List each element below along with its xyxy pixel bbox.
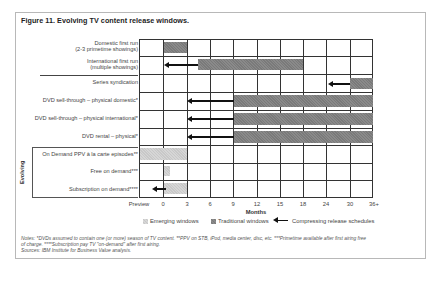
figure-notes: Notes: *DVDs assumed to contain one (or …	[21, 236, 421, 255]
section-divider	[40, 75, 138, 76]
compress-arrow-icon	[191, 100, 234, 102]
x-tick: 15	[277, 201, 283, 207]
x-tick: 12	[254, 201, 260, 207]
x-tick: 30	[347, 201, 353, 207]
legend-emerging: Emerging windows	[143, 218, 199, 224]
legend-label: Compressing release schedules	[292, 218, 375, 224]
compress-arrow-icon	[332, 83, 350, 85]
compress-arrow-icon	[168, 64, 198, 66]
bar-dvd-sell-international	[234, 113, 373, 125]
legend-compressing: Compressing release schedules	[274, 218, 375, 224]
grid-line	[139, 180, 373, 181]
compress-arrow-icon	[277, 220, 288, 222]
x-tick: Preview	[129, 201, 150, 207]
grid-line	[139, 197, 373, 198]
bar-series-syndication	[350, 78, 373, 89]
compress-arrow-icon	[191, 136, 234, 138]
row-label-dvd-rental: DVD rental – physical*	[82, 133, 138, 139]
bar-free-on-demand	[164, 166, 170, 176]
legend-label: Emerging windows	[150, 218, 199, 224]
x-tick: 18	[300, 201, 306, 207]
grid-line	[139, 92, 373, 93]
evolving-bracket	[32, 147, 138, 198]
grid-line	[139, 39, 373, 40]
row-label-domestic-first-run: Domestic first run (2-3 primetime showin…	[75, 40, 138, 53]
x-tick: 36+	[369, 201, 379, 207]
x-tick: 3	[185, 201, 188, 207]
sources-line: Sources: IBM Institute for Business Valu…	[21, 248, 421, 254]
bar-domestic-first-run	[164, 42, 187, 53]
evolving-group-label: Evolving	[19, 161, 25, 184]
bar-dvd-sell-domestic	[234, 95, 373, 107]
compress-arrow-icon	[156, 188, 166, 190]
legend-traditional: Traditional windows	[211, 218, 269, 224]
legend-label: Traditional windows	[218, 218, 269, 224]
row-sublabel-text: (multiple showings)	[87, 64, 138, 70]
row-label-dvd-sell-international: DVD sell-through – physical internationa…	[35, 115, 138, 121]
grid-line	[139, 39, 140, 198]
x-tick: 0	[161, 201, 164, 207]
grid-line	[139, 128, 373, 129]
x-axis-label: Months	[246, 209, 267, 215]
bar-dvd-rental	[234, 131, 373, 143]
x-tick: 6	[208, 201, 211, 207]
grid-line	[139, 145, 373, 146]
row-label-dvd-sell-domestic: DVD sell-through – physical domestic*	[43, 97, 138, 103]
traditional-swatch-icon	[211, 219, 216, 224]
x-tick: 9	[231, 201, 234, 207]
grid-line	[139, 110, 373, 111]
x-tick: 24	[323, 201, 329, 207]
compress-arrow-icon	[191, 118, 234, 120]
grid-line	[139, 56, 373, 57]
bar-international-first-run	[198, 59, 303, 70]
emerging-swatch-icon	[143, 219, 148, 224]
row-label-series-syndication: Series syndication	[93, 79, 138, 85]
figure-title: Figure 11. Evolving TV content release w…	[21, 16, 189, 25]
bar-subscription-on-demand	[164, 183, 187, 194]
chart-grid	[139, 39, 373, 198]
grid-line	[139, 74, 373, 75]
grid-line	[139, 163, 373, 164]
row-label-international-first-run: International first run (multiple showin…	[87, 58, 138, 71]
row-sublabel-text: (2-3 primetime showings)	[75, 46, 138, 52]
bar-on-demand-ppv	[140, 148, 187, 160]
